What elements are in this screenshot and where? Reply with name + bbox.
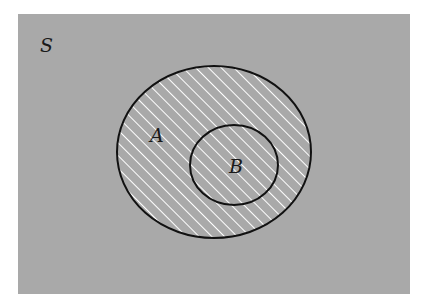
universe-label: S: [40, 34, 53, 56]
venn-diagram: S A B: [0, 0, 430, 304]
set-a-ellipse: [117, 66, 311, 238]
set-a-label: A: [148, 124, 164, 146]
set-b-label: B: [228, 155, 243, 177]
